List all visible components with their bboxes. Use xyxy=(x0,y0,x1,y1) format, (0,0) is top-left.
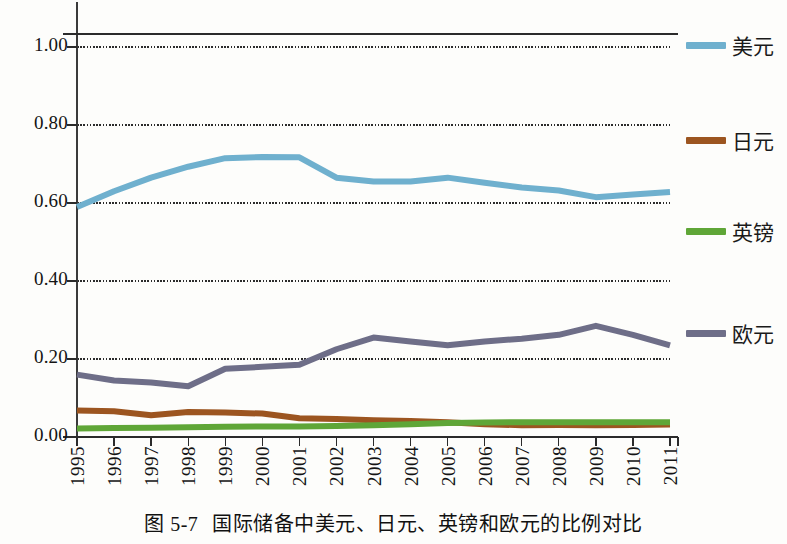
x-tick-label-2001: 2001 xyxy=(289,446,311,486)
x-tick-label-2002: 2002 xyxy=(326,446,348,486)
x-tick-label-2005: 2005 xyxy=(438,446,460,486)
x-tick-label-2011: 2011 xyxy=(660,446,682,485)
x-tick-label-1998: 1998 xyxy=(178,446,200,486)
legend-swatch-icon-美元 xyxy=(686,42,726,49)
x-tick-label-2007: 2007 xyxy=(512,446,534,486)
figure-caption-number: 图 5-7 xyxy=(144,513,198,535)
chart-legend: 美元日元英镑欧元 xyxy=(686,0,787,380)
x-tick-label-2009: 2009 xyxy=(586,446,608,486)
x-tick-label-2006: 2006 xyxy=(475,446,497,486)
figure-caption-text: 国际储备中美元、日元、英镑和欧元的比例对比 xyxy=(212,513,643,535)
x-tick-label-1995: 1995 xyxy=(67,446,89,486)
x-tick-label-2004: 2004 xyxy=(401,446,423,486)
chart-figure: 1.000.800.600.400.200.00 199519961997199… xyxy=(0,0,787,505)
x-tick-label-1999: 1999 xyxy=(215,446,237,486)
legend-item-英镑[interactable]: 英镑 xyxy=(686,220,774,242)
legend-label-日元: 日元 xyxy=(732,125,774,155)
x-axis-tick-labels: 1995199619971998199920002001200220032004… xyxy=(0,0,787,505)
legend-label-欧元: 欧元 xyxy=(732,318,774,348)
x-tick-label-2008: 2008 xyxy=(549,446,571,486)
x-tick-label-2003: 2003 xyxy=(364,446,386,486)
legend-label-英镑: 英镑 xyxy=(732,216,774,246)
legend-swatch-icon-日元 xyxy=(686,137,726,144)
x-tick-label-1996: 1996 xyxy=(104,446,126,486)
legend-item-欧元[interactable]: 欧元 xyxy=(686,322,774,344)
figure-caption: 图 5-7国际储备中美元、日元、英镑和欧元的比例对比 xyxy=(0,508,787,537)
x-tick-label-2000: 2000 xyxy=(252,446,274,486)
figure-page: 1.000.800.600.400.200.00 199519961997199… xyxy=(0,0,787,544)
legend-item-日元[interactable]: 日元 xyxy=(686,129,774,151)
legend-label-美元: 美元 xyxy=(732,30,774,60)
x-tick-label-2010: 2010 xyxy=(623,446,645,486)
legend-swatch-icon-欧元 xyxy=(686,330,726,337)
x-tick-label-1997: 1997 xyxy=(141,446,163,486)
legend-item-美元[interactable]: 美元 xyxy=(686,34,774,56)
legend-swatch-icon-英镑 xyxy=(686,228,726,235)
